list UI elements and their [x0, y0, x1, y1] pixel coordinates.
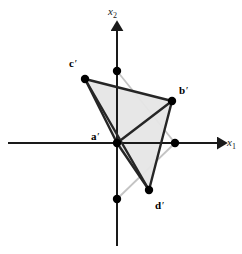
vertex-label-b-prime-prime: ′ [185, 84, 187, 96]
vertex-label-c-prime-prime: ′ [74, 57, 76, 69]
vertex-label-d-prime-prime: ′ [161, 199, 163, 211]
axis-label-x1: x1 [227, 137, 236, 151]
vertex-dot-a-prime [113, 139, 121, 147]
axis-dot-x2-positive [113, 67, 121, 75]
axis-label-x2: x2 [108, 6, 117, 20]
vertex-dot-d-prime [145, 186, 153, 194]
vertex-label-d-prime: d′ [155, 200, 164, 211]
vertex-label-b-prime: b′ [179, 85, 188, 96]
vector-diagram-svg [0, 0, 242, 254]
axis-label-x1-sub: 1 [232, 142, 236, 151]
axis-dot-x2-negative [113, 195, 121, 203]
axis-dot-x1-positive [171, 139, 179, 147]
vertex-dot-c-prime [81, 75, 89, 83]
figure-canvas: x2 x1 a′b′c′d′ [0, 0, 242, 254]
vertex-label-a-prime: a′ [91, 131, 99, 142]
vertex-dot-b-prime [168, 97, 176, 105]
vertex-label-a-prime-prime: ′ [97, 130, 99, 142]
vertex-label-c-prime: c′ [69, 58, 76, 69]
axis-label-x2-sub: 2 [113, 11, 117, 20]
